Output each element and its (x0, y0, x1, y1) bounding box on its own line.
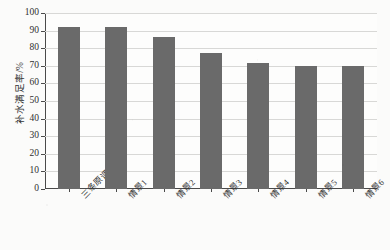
bar-slot (45, 13, 92, 189)
x-axis-label: 情景3 (221, 193, 229, 201)
y-tick-label: 50 (30, 96, 40, 106)
y-tick-label: 70 (30, 61, 40, 71)
y-tick-label: 30 (30, 131, 40, 141)
x-axis-label: 情景1 (126, 193, 134, 201)
x-axis-label: 情景6 (363, 193, 371, 201)
x-tick-mark (306, 189, 307, 192)
y-tick-label: 90 (30, 26, 40, 36)
x-axis-label: 三条原调度线 (79, 193, 87, 201)
bar-slot (235, 13, 282, 189)
bar-chart-figure: 补水满足率/% 0102030405060708090100 三条原调度线情景1… (0, 0, 390, 250)
bar-slot (282, 13, 329, 189)
y-tick-label: 60 (30, 79, 40, 89)
plot-area: 0102030405060708090100 (45, 13, 377, 189)
bar-slot (92, 13, 139, 189)
y-tick-label: 100 (25, 8, 39, 18)
bar (200, 53, 222, 189)
y-tick-label: 80 (30, 43, 40, 53)
bar (153, 37, 175, 189)
bar-slot (187, 13, 234, 189)
bar-series (45, 13, 377, 189)
x-axis-labels: 三条原调度线情景1情景2情景3情景4情景5情景6 (45, 189, 377, 250)
bar (247, 63, 269, 189)
y-tick-label: 10 (30, 167, 40, 177)
bar (105, 27, 127, 189)
y-tick-label: 40 (30, 114, 40, 124)
y-axis-title: 补水满足率/% (13, 0, 27, 188)
x-tick-mark (211, 189, 212, 192)
bar-slot (330, 13, 377, 189)
x-axis-label: 情景4 (268, 193, 276, 201)
bar (342, 66, 364, 189)
x-tick-mark (258, 189, 259, 192)
x-tick-mark (353, 189, 354, 192)
x-tick-mark (69, 189, 70, 192)
x-tick-mark (164, 189, 165, 192)
bar (295, 66, 317, 189)
y-tick-label: 0 (34, 184, 39, 194)
bar (58, 27, 80, 189)
x-axis-label: 情景5 (316, 193, 324, 201)
x-tick-mark (116, 189, 117, 192)
bar-slot (140, 13, 187, 189)
y-tick-label: 20 (30, 149, 40, 159)
x-axis-label: 情景2 (174, 193, 182, 201)
